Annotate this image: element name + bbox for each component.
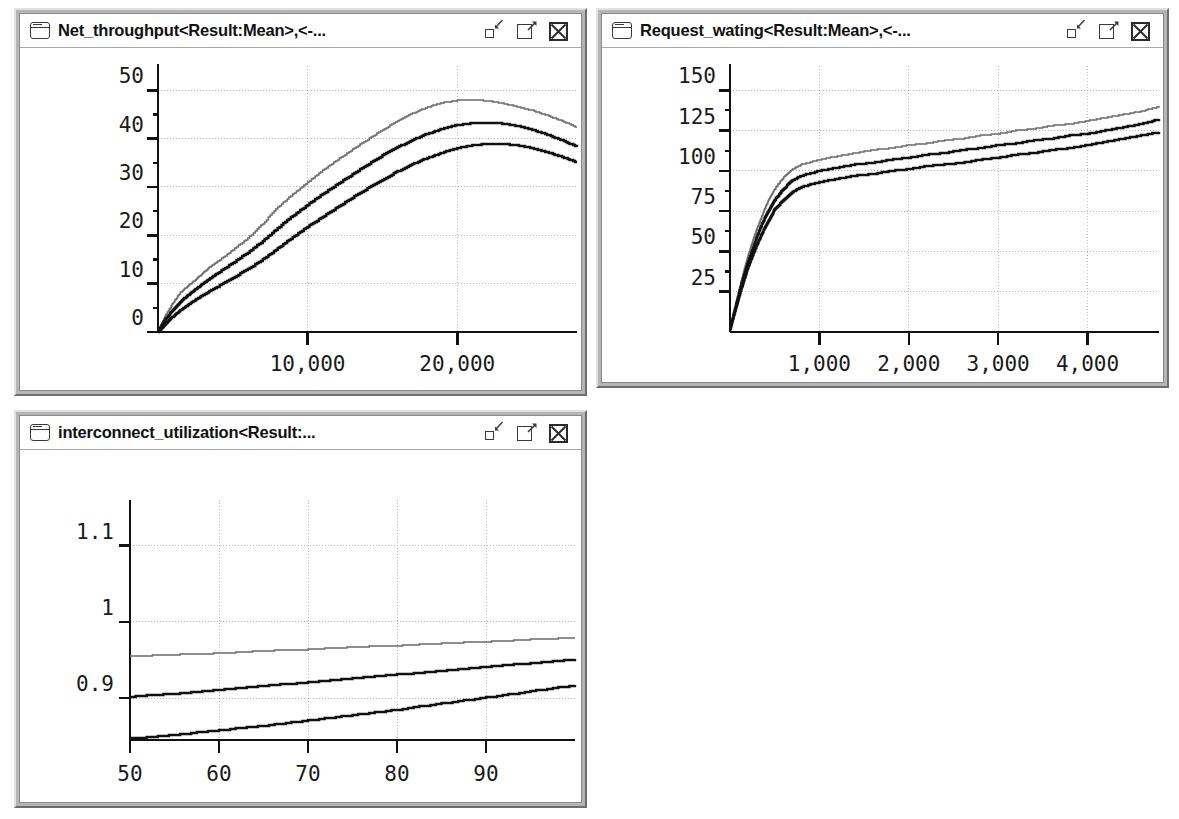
y-tick-label: 100 bbox=[678, 145, 716, 169]
titlebar[interactable]: Net_throughput<Result:Mean>,<-... bbox=[20, 14, 581, 48]
window-interconnect-utilization[interactable]: interconnect_utilization<Result:... bbox=[14, 410, 587, 808]
x-tick-label: 90 bbox=[473, 762, 498, 786]
series-line-mean bbox=[130, 659, 575, 697]
plot-area-net-throughput: 0102030405010,00020,000 bbox=[20, 48, 581, 390]
titlebar-buttons bbox=[483, 422, 573, 444]
plot-area-request-waiting: 2550751001251501,0002,0003,0004,000 bbox=[602, 48, 1163, 382]
chart-net-throughput: 0102030405010,00020,000 bbox=[20, 48, 581, 390]
window-title: Request_wating<Result:Mean>,<-... bbox=[640, 21, 1057, 40]
chart-request-waiting: 2550751001251501,0002,0003,0004,000 bbox=[602, 48, 1163, 382]
close-x-icon bbox=[549, 22, 568, 41]
minimize-icon[interactable] bbox=[483, 422, 503, 444]
series-line-upper bbox=[130, 638, 575, 656]
y-tick-label: 20 bbox=[119, 209, 144, 233]
window-icon bbox=[30, 22, 50, 39]
y-tick-label: 25 bbox=[691, 266, 716, 290]
x-tick-label: 1,000 bbox=[788, 352, 851, 376]
window-title: interconnect_utilization<Result:... bbox=[58, 423, 475, 442]
maximize-icon[interactable] bbox=[516, 422, 536, 444]
window-inner: interconnect_utilization<Result:... bbox=[19, 415, 582, 803]
close-icon[interactable] bbox=[1131, 20, 1151, 42]
chart-interconnect-utilization: 0.911.15060708090 bbox=[20, 450, 581, 802]
y-tick-label: 50 bbox=[119, 64, 144, 88]
x-tick-label: 4,000 bbox=[1056, 352, 1119, 376]
minimize-icon[interactable] bbox=[1065, 20, 1085, 42]
x-tick-label: 20,000 bbox=[419, 352, 495, 376]
window-net-throughput[interactable]: Net_throughput<Result:Mean>,<-... bbox=[14, 8, 587, 396]
window-title: Net_throughput<Result:Mean>,<-... bbox=[58, 21, 475, 40]
y-tick-label: 40 bbox=[119, 113, 144, 137]
minimize-arrow-icon bbox=[1075, 19, 1086, 30]
x-tick-label: 70 bbox=[295, 762, 320, 786]
window-inner: Request_wating<Result:Mean>,<-... bbox=[601, 13, 1164, 383]
minimize-arrow-icon bbox=[493, 421, 504, 432]
series-line-upper bbox=[730, 106, 1159, 329]
y-tick-label: 1 bbox=[101, 596, 114, 620]
maximize-icon[interactable] bbox=[1098, 20, 1118, 42]
maximize-arrow-icon bbox=[526, 422, 538, 434]
minimize-icon[interactable] bbox=[483, 20, 503, 42]
y-tick-label: 150 bbox=[678, 64, 716, 88]
titlebar-buttons bbox=[1065, 20, 1155, 42]
close-x-icon bbox=[1131, 22, 1150, 41]
x-tick-label: 60 bbox=[206, 762, 231, 786]
window-inner: Net_throughput<Result:Mean>,<-... bbox=[19, 13, 582, 391]
window-icon bbox=[30, 424, 50, 441]
y-tick-label: 125 bbox=[678, 105, 716, 129]
series-line-mean bbox=[730, 119, 1159, 329]
window-request-waiting[interactable]: Request_wating<Result:Mean>,<-... bbox=[596, 8, 1169, 388]
minimize-arrow-icon bbox=[493, 19, 504, 30]
x-tick-label: 50 bbox=[117, 762, 142, 786]
close-icon[interactable] bbox=[549, 422, 569, 444]
y-tick-label: 75 bbox=[691, 185, 716, 209]
y-tick-label: 50 bbox=[691, 225, 716, 249]
window-icon bbox=[612, 22, 632, 39]
y-tick-label: 0 bbox=[131, 306, 144, 330]
series-line-mean bbox=[158, 123, 577, 331]
titlebar[interactable]: interconnect_utilization<Result:... bbox=[20, 416, 581, 450]
x-tick-label: 2,000 bbox=[877, 352, 940, 376]
x-tick-label: 80 bbox=[384, 762, 409, 786]
y-tick-label: 1.1 bbox=[76, 520, 114, 544]
screenshot-root: Net_throughput<Result:Mean>,<-... bbox=[0, 0, 1179, 819]
y-tick-label: 0.9 bbox=[76, 672, 114, 696]
maximize-arrow-icon bbox=[526, 20, 538, 32]
maximize-icon[interactable] bbox=[516, 20, 536, 42]
series-line-lower bbox=[158, 144, 577, 332]
y-tick-label: 10 bbox=[119, 258, 144, 282]
maximize-arrow-icon bbox=[1108, 20, 1120, 32]
plot-area-interconnect-utilization: 0.911.15060708090 bbox=[20, 450, 581, 802]
titlebar-buttons bbox=[483, 20, 573, 42]
x-tick-label: 3,000 bbox=[966, 352, 1029, 376]
titlebar[interactable]: Request_wating<Result:Mean>,<-... bbox=[602, 14, 1163, 48]
close-icon[interactable] bbox=[549, 20, 569, 42]
y-tick-label: 30 bbox=[119, 161, 144, 185]
close-x-icon bbox=[549, 424, 568, 443]
x-tick-label: 10,000 bbox=[270, 352, 346, 376]
series-line-lower bbox=[730, 132, 1159, 329]
series-line-upper bbox=[158, 100, 577, 331]
